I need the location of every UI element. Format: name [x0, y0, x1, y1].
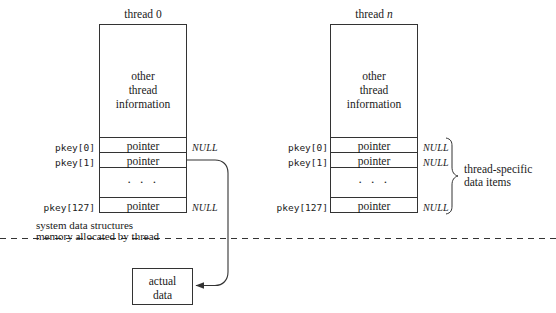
threadn-info-line-2: thread	[330, 83, 418, 97]
thread0-info-line-2: thread	[99, 83, 187, 97]
threadn-cell-0: pointer	[330, 139, 418, 154]
thread0-cell-127: pointer	[99, 199, 187, 214]
threadn-title: thread n	[330, 8, 418, 21]
thread0-pkey-label-1: pkey[1]	[10, 155, 95, 170]
thread0-cell-ellipsis: · · ·	[99, 174, 187, 189]
threadn-info-block: other thread information	[330, 69, 418, 111]
thread0-cell-1: pointer	[99, 154, 187, 169]
thread0-title-suffix: 0	[156, 8, 162, 20]
thread0-title: thread 0	[99, 8, 187, 21]
actual-data-label-line-2: data	[132, 288, 193, 302]
thread0-info-line-3: information	[99, 97, 187, 111]
thread0-pkey-label-0: pkey[0]	[10, 140, 95, 155]
divider-note-below: memory allocated by thread	[36, 231, 159, 243]
threadn-title-prefix: thread	[355, 8, 387, 20]
threadn-cell-ellipsis: · · ·	[330, 174, 418, 189]
pkey1-to-actual-data-arrow	[187, 160, 229, 286]
thread-specific-annotation-line-1: thread-specific	[464, 163, 532, 176]
actual-data-label-line-1: actual	[132, 274, 193, 288]
thread0-null-0: NULL	[192, 140, 218, 155]
figure-canvas: thread 0 other thread information pkey[0…	[0, 0, 556, 313]
thread0-pkey-label-127: pkey[127]	[10, 200, 95, 215]
threadn-cell-1: pointer	[330, 154, 418, 169]
threadn-null-1: NULL	[423, 155, 449, 170]
thread-specific-annotation: thread-specific data items	[464, 163, 532, 189]
threadn-cell-127: pointer	[330, 199, 418, 214]
actual-data-label: actual data	[132, 274, 193, 302]
threadn-info-line-1: other	[330, 69, 418, 83]
threadn-title-suffix: n	[387, 8, 393, 20]
threadn-null-0: NULL	[423, 140, 449, 155]
thread0-cell-0: pointer	[99, 139, 187, 154]
threadn-pkey-label-127: pkey[127]	[243, 200, 328, 215]
thread0-null-127: NULL	[192, 200, 218, 215]
threadn-info-line-3: information	[330, 97, 418, 111]
thread-specific-annotation-line-2: data items	[464, 176, 532, 189]
thread0-title-prefix: thread	[124, 8, 156, 20]
thread0-info-line-1: other	[99, 69, 187, 83]
threadn-pkey-label-0: pkey[0]	[243, 140, 328, 155]
threadn-null-127: NULL	[423, 200, 449, 215]
thread0-info-block: other thread information	[99, 69, 187, 111]
threadn-pkey-label-1: pkey[1]	[243, 155, 328, 170]
